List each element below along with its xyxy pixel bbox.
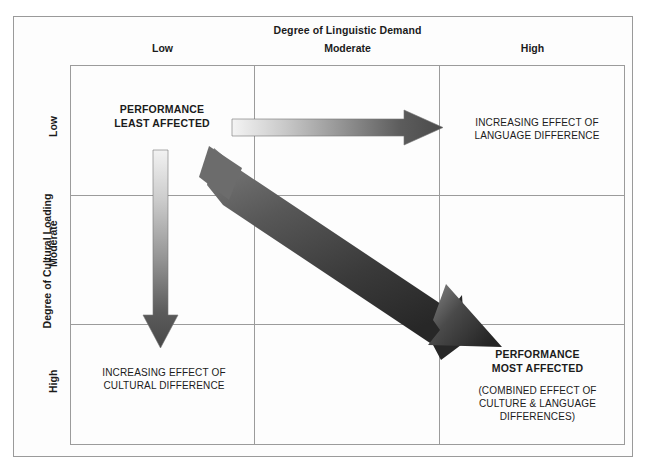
figure-root: Degree of Linguistic Demand Low Moderate… <box>0 0 648 472</box>
grid-hline-1 <box>71 195 624 196</box>
cell-label-top-left-line1: PERFORMANCE <box>82 103 242 117</box>
grid-hline-2 <box>71 324 624 325</box>
cell-label-top-right: INCREASING EFFECT OF LANGUAGE DIFFERENCE <box>448 116 626 142</box>
grid-vline-1 <box>254 66 255 444</box>
cell-label-bottom-left: INCREASING EFFECT OF CULTURAL DIFFERENCE <box>74 366 254 392</box>
x-tick-moderate: Moderate <box>255 42 440 60</box>
cell-label-top-left-line2: LEAST AFFECTED <box>82 117 242 131</box>
cell-note-bottom-right-line3: DIFFERENCES) <box>440 410 635 423</box>
y-tick-low-label: Low <box>47 119 59 137</box>
cell-label-bottom-right-line2: MOST AFFECTED <box>440 362 635 376</box>
x-axis-title: Degree of Linguistic Demand <box>70 24 625 36</box>
y-tick-high: High <box>44 378 62 390</box>
cell-label-bottom-left-line2: CULTURAL DIFFERENCE <box>74 379 254 392</box>
x-axis-tick-labels: Low Moderate High <box>70 42 625 60</box>
cell-note-bottom-right-line2: CULTURE & LANGUAGE <box>440 397 635 410</box>
y-tick-high-label: High <box>47 375 59 393</box>
cell-label-top-right-line2: LANGUAGE DIFFERENCE <box>448 129 626 142</box>
y-tick-low: Low <box>44 122 62 134</box>
cell-label-bottom-left-line1: INCREASING EFFECT OF <box>74 366 254 379</box>
x-tick-high: High <box>440 42 625 60</box>
cell-note-bottom-right: (COMBINED EFFECT OF CULTURE & LANGUAGE D… <box>440 384 635 424</box>
cell-note-bottom-right-line1: (COMBINED EFFECT OF <box>440 384 635 397</box>
cell-label-top-right-line1: INCREASING EFFECT OF <box>448 116 626 129</box>
cell-label-bottom-right: PERFORMANCE MOST AFFECTED <box>440 348 635 376</box>
y-tick-moderate-label: Moderate <box>47 249 59 267</box>
y-tick-moderate: Moderate <box>44 252 62 264</box>
x-tick-low: Low <box>70 42 255 60</box>
cell-label-top-left: PERFORMANCE LEAST AFFECTED <box>82 103 242 131</box>
cell-label-bottom-right-line1: PERFORMANCE <box>440 348 635 362</box>
